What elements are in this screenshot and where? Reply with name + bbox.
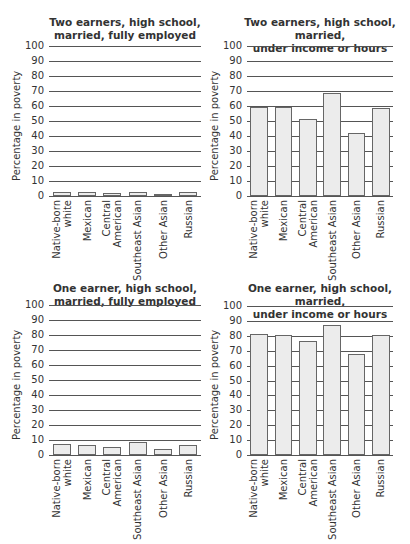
bar <box>179 192 197 196</box>
gridline <box>49 425 201 426</box>
y-tick-label: 90 <box>220 316 242 326</box>
chart-panel: Two earners, high school, married,under … <box>205 0 410 268</box>
x-tick-label: Native-bornwhite <box>248 459 270 544</box>
gridline <box>247 46 393 47</box>
y-tick-label: 70 <box>220 346 242 356</box>
bar <box>299 341 317 455</box>
y-tick-label: 60 <box>22 360 44 370</box>
y-tick-label: 30 <box>220 146 242 156</box>
chart-panel: One earner, high school, married,under i… <box>205 266 410 534</box>
x-tick-label: Southeast Asian <box>132 459 143 544</box>
y-tick-label: 10 <box>22 176 44 186</box>
bar <box>103 447 121 455</box>
bar <box>250 107 268 196</box>
gridline <box>49 320 201 321</box>
y-tick-label: 30 <box>22 405 44 415</box>
bar <box>372 108 390 197</box>
gridline <box>49 380 201 381</box>
x-tick-label: Russian <box>183 459 194 544</box>
bar <box>53 192 71 196</box>
y-tick-label: 90 <box>220 56 242 66</box>
x-tick-label: Other Asian <box>158 459 169 544</box>
gridline <box>49 106 201 107</box>
y-tick-label: 100 <box>220 41 242 51</box>
bar <box>299 119 317 196</box>
bar <box>179 445 197 455</box>
y-tick-label: 50 <box>220 376 242 386</box>
gridline <box>49 76 201 77</box>
x-tick-label-line: white <box>62 459 73 544</box>
y-tick-label: 60 <box>220 361 242 371</box>
bar <box>275 107 293 196</box>
chart-panel: One earner, high school,married, fully e… <box>0 266 205 534</box>
x-tick-label-line: Mexican <box>82 459 93 544</box>
y-tick-label: 60 <box>220 101 242 111</box>
y-tick-label: 10 <box>220 435 242 445</box>
x-tick-label-line: Russian <box>183 459 194 544</box>
y-tick-label: 30 <box>22 146 44 156</box>
y-tick-label: 20 <box>220 420 242 430</box>
gridline <box>247 196 393 197</box>
bar <box>323 325 341 455</box>
x-tick-label-line: Native-born <box>51 459 62 544</box>
y-tick-label: 100 <box>220 301 242 311</box>
gridline <box>49 305 201 306</box>
y-tick-label: 100 <box>22 300 44 310</box>
y-axis-label: Percentage in poverty <box>11 71 22 181</box>
bar <box>154 194 172 196</box>
y-tick-label: 20 <box>22 420 44 430</box>
bar <box>78 192 96 196</box>
x-tick-label-line: white <box>259 459 270 544</box>
y-tick-label: 90 <box>22 315 44 325</box>
x-tick-label-line: American <box>308 459 319 544</box>
x-tick-label-line: Southeast Asian <box>132 459 143 544</box>
x-tick-label: CentralAmerican <box>297 459 319 544</box>
y-tick-label: 40 <box>22 390 44 400</box>
x-tick-label-line: Other Asian <box>158 459 169 544</box>
y-axis-label: Percentage in poverty <box>209 330 220 440</box>
gridline <box>49 136 201 137</box>
gridline <box>49 121 201 122</box>
bar <box>348 354 366 455</box>
x-tick-label: Southeast Asian <box>327 459 338 544</box>
x-tick-label-line: Southeast Asian <box>327 459 338 544</box>
x-tick-label: Native-bornwhite <box>51 459 73 544</box>
y-tick-label: 80 <box>22 71 44 81</box>
gridline <box>49 440 201 441</box>
bar <box>275 335 293 455</box>
gridline <box>247 321 393 322</box>
y-tick-label: 60 <box>22 101 44 111</box>
bar <box>129 192 147 197</box>
gridline <box>49 46 201 47</box>
gridline <box>49 455 201 456</box>
y-tick-label: 70 <box>22 86 44 96</box>
y-tick-label: 20 <box>220 161 242 171</box>
y-tick-label: 50 <box>220 116 242 126</box>
y-axis-label: Percentage in poverty <box>11 330 22 440</box>
plot-area <box>247 46 393 196</box>
y-tick-label: 80 <box>22 330 44 340</box>
gridline <box>247 91 393 92</box>
y-axis-label: Percentage in poverty <box>209 71 220 181</box>
chart-title-line: Two earners, high school, married, <box>230 16 410 42</box>
bar <box>78 445 96 456</box>
chart-title-line: Two earners, high school, <box>40 16 210 29</box>
x-tick-label-line: Central <box>101 459 112 544</box>
y-tick-label: 40 <box>22 131 44 141</box>
bar <box>103 193 121 196</box>
plot-area <box>49 46 201 196</box>
x-tick-label-line: Mexican <box>278 459 289 544</box>
y-tick-label: 50 <box>22 375 44 385</box>
gridline <box>49 166 201 167</box>
chart-title: Two earners, high school,married, fully … <box>40 16 210 42</box>
gridline <box>49 395 201 396</box>
gridline <box>49 91 201 92</box>
y-tick-label: 10 <box>220 176 242 186</box>
bar <box>250 334 268 455</box>
bar <box>348 133 366 196</box>
x-tick-label: Other Asian <box>351 459 362 544</box>
gridline <box>247 455 393 456</box>
y-tick-label: 70 <box>220 86 242 96</box>
gridline <box>49 61 201 62</box>
y-tick-label: 0 <box>220 450 242 460</box>
